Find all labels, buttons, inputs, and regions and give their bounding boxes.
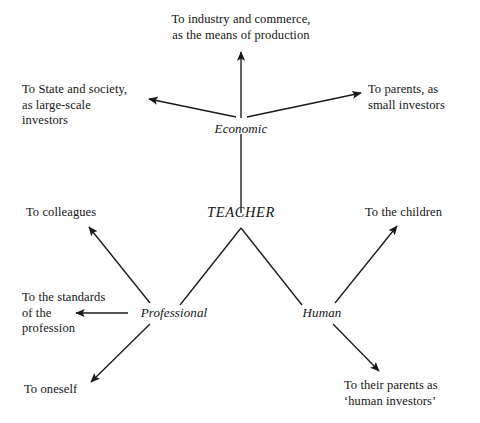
node-economic: Economic [215,121,268,137]
label-parents-small-investors: To parents, as small investors [368,82,445,113]
label-industry-and-commerce: To industry and commerce, as the means o… [171,12,310,43]
edge-human-children [335,226,397,303]
diagram-canvas: To industry and commerce, as the means o… [0,0,480,423]
edge-human-parents [333,324,379,371]
node-professional: Professional [141,305,207,321]
edge-teacher-human [241,228,302,305]
label-standards-of-the-profession: To the standards of the profession [22,290,105,337]
edge-teacher-professional [180,228,241,305]
label-to-oneself: To oneself [24,382,77,398]
edge-economic-parents-small [247,93,361,117]
label-to-their-parents-human-investors: To their parents as ‘human investors’ [344,378,438,409]
node-human: Human [303,305,342,321]
label-to-the-children: To the children [365,205,442,221]
label-state-and-society: To State and society, as large-scale inv… [22,82,127,129]
edge-economic-state [149,99,236,117]
label-to-colleagues: To colleagues [26,205,96,221]
node-teacher: TEACHER [207,205,275,221]
